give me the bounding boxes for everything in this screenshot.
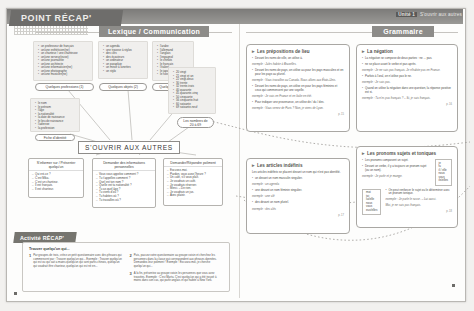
grammar-box-header: ▸ Les prépositions de lieu xyxy=(252,49,344,54)
grammar-example: exemple : Je ne suis pas français. Je n'… xyxy=(362,69,452,73)
activity-column-right: 2 Puis, passez votre questionnaire au gr… xyxy=(130,254,224,287)
vocab-item: la profession xyxy=(35,127,75,131)
grammar-reference: p. 16 xyxy=(362,103,452,106)
vocab-tag-professions[interactable]: Quelques professions (1) xyxy=(35,83,94,91)
grammar-example: exemple : Tu n'es pas français ? – Si, j… xyxy=(362,97,452,101)
triangle-right-icon: ▸ xyxy=(252,163,255,168)
grammar-example: exemple : une clé xyxy=(252,195,344,199)
vocab-box-objets: un agenda une trousse à stylos des clés … xyxy=(98,41,148,79)
comm-list: Qui est-ce ? C'est Mika. C'est un chante… xyxy=(29,171,83,193)
grammar-rule: On peut renforcer le sujet ou le détermi… xyxy=(385,189,452,196)
grammar-rule: Quand on utilise la négation dans une qu… xyxy=(362,87,452,94)
grammar-rule: une devant un nom féminin singulier. xyxy=(252,189,344,193)
vocab-tag-fiche-identite[interactable]: Fiche d'identité xyxy=(35,134,75,141)
textbook-spread: POINT RÉCAP' Unité 1 S'ouvrir aux autres… xyxy=(0,0,474,311)
grammar-rule: Devant les noms de pays, on utilise en p… xyxy=(252,85,344,92)
unit-number: Unité 1 xyxy=(396,12,417,17)
comm-item: Tu travailles où ? xyxy=(96,199,152,203)
vocab-list-objets: un agenda une trousse à stylos des clés … xyxy=(103,45,143,73)
folio-square-right xyxy=(452,284,455,287)
comm-list: Vous vous appelez comment ? Tu t'appelle… xyxy=(93,171,155,204)
activity-step-text: À la fin, présentez au groupe voisin les… xyxy=(134,272,223,283)
grammar-rule: un devant un nom masculin singulier. xyxy=(252,177,344,181)
comm-box-poliment: Demander/Répondre poliment Excusez-moi. … xyxy=(163,158,223,206)
grammar-rule: des devant un nom pluriel. xyxy=(252,201,344,205)
point-recap-label: POINT RÉCAP' xyxy=(21,13,92,23)
grammar-box-header: ▸ Les articles indéfinis xyxy=(252,163,344,168)
grammar-box-prepositions: ▸ Les prépositions de lieu Devant les no… xyxy=(246,44,350,132)
grammar-rule: Devant un verbe, il y a toujours un pron… xyxy=(362,165,431,172)
grammar-example: exemple : Jules habite à Bruxelles. xyxy=(252,63,344,67)
vocab-item: un stylo xyxy=(103,70,143,74)
activity-title: Trouver quelqu'un qui... xyxy=(29,247,223,251)
grammar-example: exemple : Vous travaillez au Canada. Nou… xyxy=(252,79,344,83)
grammar-box-header: ▸ Les pronoms sujets et toniques xyxy=(362,151,452,156)
grammar-rule: Devant les noms de pays, on utilise au p… xyxy=(252,69,344,76)
grammar-example: exemple : Je sais pas. xyxy=(362,81,452,85)
point-recap-tab: POINT RÉCAP' xyxy=(9,10,123,26)
activity-step: 1 Par groupes de trois, créez un petit q… xyxy=(29,254,123,268)
grammar-example: exemple : Je parle le russe. – Lui aussi… xyxy=(385,198,452,202)
vocab-list-nombres: 20 vingt 21 vingt et un 22 vingt-deux 30… xyxy=(173,71,211,110)
comm-item: Avec plaisir. xyxy=(167,194,219,198)
comm-list: Excusez-moi. Pardon, vous avez l'heure ?… xyxy=(164,167,222,200)
grammar-rule: Parfois à l'oral, on n'utilise pas le ne… xyxy=(362,75,452,79)
grammar-box-pronoms: ▸ Les pronoms sujets et toniques Les pro… xyxy=(356,146,458,228)
unit-title: S'ouvrir aux autres xyxy=(420,12,462,17)
activity-step-number: 2 xyxy=(130,254,132,268)
grammar-rule: Devant les noms de ville, on utilise à. xyxy=(252,57,344,61)
vocab-tag-nombres[interactable]: Les nombres de 20 à 69 xyxy=(177,117,214,128)
grammar-rule: Les articles indéfinis se placent devant… xyxy=(252,171,344,175)
grammar-example: Moi, je ne suis pas français. xyxy=(385,204,452,208)
activity-step: 2 Puis, passez votre questionnaire au gr… xyxy=(130,254,224,268)
grammar-reference: p. 17 xyxy=(252,214,344,217)
activity-step-text: Puis, passez votre questionnaire au grou… xyxy=(134,254,223,268)
grammar-example: exemple : des clés xyxy=(252,208,344,212)
grammar-box-title: La négation xyxy=(367,49,393,54)
activity-step-number: 3 xyxy=(130,272,132,283)
comm-box-title: S'informer sur / Présenter quelqu'un xyxy=(29,159,83,171)
comm-box-presenter: S'informer sur / Présenter quelqu'un Qui… xyxy=(28,158,84,198)
tonic-pronouns-table: moi toi lui/elle nous vous eux/elles xyxy=(362,189,381,216)
activity-step-number: 1 xyxy=(29,254,31,268)
pronoun-cell: eux/elles xyxy=(366,209,377,213)
grammar-example: exemple : Je vais en France et en Italie… xyxy=(252,95,344,99)
comm-item: Il est chanteur. xyxy=(32,188,80,192)
unit-tag: Unité 1 S'ouvrir aux autres xyxy=(396,10,462,19)
hatch-decoration xyxy=(14,26,88,35)
grammar-box-title: Les prépositions de lieu xyxy=(257,49,310,54)
triangle-right-icon: ▸ xyxy=(362,151,365,156)
grammar-example: exemple : un agenda xyxy=(252,183,344,187)
vocab-box-professions: un professeur de français un/une esthéti… xyxy=(33,41,93,81)
pronoun-cell: ils/elles xyxy=(439,179,448,183)
activity-step: 3 À la fin, présentez au groupe voisin l… xyxy=(130,272,224,283)
grammaire-banner: Grammaire xyxy=(372,26,434,37)
mindmap-center-node: S'OUVRIR AUX AUTRES xyxy=(78,141,180,154)
vocab-tag-objets[interactable]: Quelques objets (2) xyxy=(99,83,147,91)
activity-tab-label: Activité RÉCAP' xyxy=(20,235,64,241)
grammar-example: exemple : Vous venez de Paris ? Non, je … xyxy=(252,107,344,111)
vocab-item: 69 soixante-neuf xyxy=(173,106,211,110)
grammar-rule: Les pronoms composent un sujet. xyxy=(362,159,431,163)
grammar-rule: Pour indiquer une provenance, on utilise… xyxy=(252,101,344,105)
activity-box: Trouver quelqu'un qui... 1 Par groupes d… xyxy=(22,242,230,292)
vocab-item: un/une musicien(ne) xyxy=(38,73,88,77)
comm-box-title: Demander des informations personnelles xyxy=(93,159,155,171)
vocab-box-nombres: 20 vingt 21 vingt et un 22 vingt-deux 30… xyxy=(168,67,216,114)
comm-box-title: Demander/Répondre poliment xyxy=(164,159,222,167)
vocab-list-professions: un professeur de français un/une esthéti… xyxy=(38,45,88,77)
vocab-list-fiche-identite: le nom le prénom l'âge la nationalité la… xyxy=(35,102,75,130)
comm-box-informations: Demander des informations personnelles V… xyxy=(92,158,156,208)
triangle-right-icon: ▸ xyxy=(252,49,255,54)
grammar-box-header: ▸ La négation xyxy=(362,49,452,54)
vocab-box-fiche-identite: le nom le prénom l'âge la nationalité la… xyxy=(30,98,80,132)
grammar-rule: La négation se compose de deux parties :… xyxy=(362,57,452,61)
grammar-box-title: Les articles indéfinis xyxy=(257,163,302,168)
triangle-right-icon: ▸ xyxy=(362,49,365,54)
subject-pronouns-table: je tu il / elle nous vous ils/elles xyxy=(435,159,452,186)
lexique-banner: Lexique / Communication xyxy=(99,26,209,37)
grammar-box-articles: ▸ Les articles indéfinis Les articles in… xyxy=(246,158,350,234)
folio-square-left xyxy=(14,292,17,295)
grammar-reference: p. 15 xyxy=(252,113,344,116)
grammar-box-title: Les pronoms sujets et toniques xyxy=(367,151,436,156)
